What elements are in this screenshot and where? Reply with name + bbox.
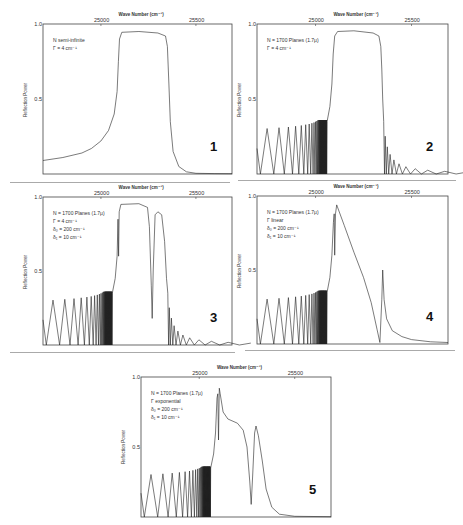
x-tick-25000: 25000 [309,189,324,195]
y-axis-title: Reflection Power [23,83,28,117]
x-axis-title: Wave Number (cm⁻¹) [217,365,262,370]
param-line: N semi-infinite [53,36,85,44]
divider [10,352,235,353]
x-tick-25000: 25000 [94,17,109,23]
x-axis-title: Wave Number (cm⁻¹) [333,12,378,17]
param-line: δ₀ = 200 cm⁻¹ [151,405,203,413]
param-line: δ₀ = 200 cm⁻¹ [267,224,319,232]
param-line: Γ exponential [151,397,203,405]
param-line: Γ = 4 cm⁻¹ [53,217,105,225]
chart-panel-3: Wave Number (cm⁻¹) 25000 25500 1.0 0.5 R… [43,197,232,345]
y-tick-0.5: 0.5 [126,444,140,450]
y-tick-1: 1.0 [242,21,256,27]
y-tick-1: 1.0 [28,21,42,27]
x-tick-25500: 25500 [189,190,204,196]
param-line: N = 1700 Planes (1.7μ) [151,389,203,397]
divider [10,182,230,183]
x-tick-25000: 25000 [309,17,324,23]
y-tick-0.5: 0.5 [242,267,256,273]
y-axis-title: Reflection Power [237,254,242,288]
parameter-list: N = 1700 Planes (1.7μ) Γ linear δ₀ = 200… [267,208,319,240]
parameter-list: N semi-infinite Γ = 4 cm⁻¹ [53,36,85,52]
panel-number: 1 [210,139,217,154]
chart-panel-2: Wave Number (cm⁻¹) 25000 25500 1.0 0.5 R… [257,24,448,174]
param-line: Γ linear [267,216,319,224]
x-tick-25000: 25000 [94,190,109,196]
x-tick-25000: 25000 [192,370,207,376]
param-line: N = 1700 Planes (1.7μ) [267,36,319,44]
y-tick-1: 1.0 [126,374,140,380]
divider [245,350,455,351]
x-tick-25500: 25500 [405,189,420,195]
y-tick-0.5: 0.5 [242,96,256,102]
param-line: Γ = 4 cm⁻¹ [53,44,85,52]
y-axis-title: Reflection Power [237,83,242,117]
param-line: δ₁ = 10 cm⁻¹ [267,232,319,240]
reflection-curve [43,32,232,174]
x-tick-25500: 25500 [189,17,204,23]
panel-number: 4 [426,309,433,324]
y-tick-0.5: 0.5 [28,268,42,274]
y-tick-1: 1.0 [242,193,256,199]
parameter-list: N = 1700 Planes (1.7μ) Γ exponential δ₀ … [151,389,203,421]
param-line: Γ = 4 cm⁻¹ [267,44,319,52]
x-axis-title: Wave Number (cm⁻¹) [333,184,378,189]
param-line: δ₁ = 10 cm⁻¹ [53,233,105,241]
param-line: δ₁ = 10 cm⁻¹ [151,413,203,421]
y-axis-title: Reflection Power [23,255,28,289]
param-line: N = 1700 Planes (1.7μ) [53,209,105,217]
param-line: N = 1700 Planes (1.7μ) [267,208,319,216]
panel-number: 3 [210,310,217,325]
x-tick-25500: 25500 [288,370,303,376]
x-axis-title: Wave Number (cm⁻¹) [119,185,164,190]
x-tick-25500: 25500 [405,17,420,23]
y-tick-0.5: 0.5 [28,96,42,102]
panel-number: 5 [309,482,316,497]
chart-panel-4: Wave Number (cm⁻¹) 25000 25500 1.0 0.5 R… [257,196,448,344]
param-line: δ₀ = 200 cm⁻¹ [53,225,105,233]
y-axis-title: Reflection Power [121,430,126,464]
parameter-list: N = 1700 Planes (1.7μ) Γ = 4 cm⁻¹ [267,36,319,52]
chart-panel-1: Wave Number (cm⁻¹) 25000 25500 1.0 0.5 R… [43,24,232,174]
y-tick-1: 1.0 [28,194,42,200]
chart-panel-5: Wave Number (cm⁻¹) 25000 25500 1.0 0.5 R… [141,377,331,517]
divider [238,180,456,181]
parameter-list: N = 1700 Planes (1.7μ) Γ = 4 cm⁻¹ δ₀ = 2… [53,209,105,241]
panel-number: 2 [426,139,433,154]
x-axis-title: Wave Number (cm⁻¹) [119,12,164,17]
